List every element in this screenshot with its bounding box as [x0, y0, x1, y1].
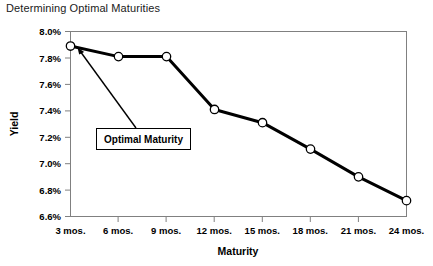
data-point-marker: [258, 118, 266, 126]
y-tick-label-6: 6.8%: [39, 185, 61, 196]
x-tick-label-2: 9 mos.: [151, 225, 181, 236]
y-tick-label-7: 6.6%: [39, 211, 61, 222]
data-point-marker: [162, 52, 170, 60]
chart-screenshot: Determining Optimal Maturities 8.0% 7.8%…: [0, 0, 433, 266]
x-axis-title: Maturity: [218, 245, 259, 257]
x-tick-label-5: 18 mos.: [293, 225, 328, 236]
y-axis-ticks: [65, 32, 71, 217]
x-tick-label-6: 21 mos.: [341, 225, 376, 236]
y-tick-label-3: 7.4%: [39, 105, 61, 116]
y-axis-title: Yield: [8, 112, 20, 137]
data-point-marker: [210, 105, 218, 113]
x-tick-label-4: 15 mos.: [245, 225, 280, 236]
x-axis-ticks: [118, 217, 358, 223]
y-tick-label-5: 7.0%: [39, 158, 61, 169]
x-tick-label-3: 12 mos.: [197, 225, 232, 236]
x-tick-label-1: 6 mos.: [103, 225, 133, 236]
data-point-marker: [114, 52, 122, 60]
chart-canvas: 8.0% 7.8% 7.6% 7.4% 7.2% 7.0% 6.8% 6.6% …: [0, 0, 433, 266]
y-tick-label-4: 7.2%: [39, 132, 61, 143]
data-point-marker: [354, 173, 362, 181]
data-point-marker: [306, 145, 314, 153]
x-tick-label-7: 24 mos.: [389, 225, 424, 236]
x-tick-label-0: 3 mos.: [55, 225, 85, 236]
data-point-marker: [402, 196, 410, 204]
y-tick-label-2: 7.6%: [39, 79, 61, 90]
y-tick-label-0: 8.0%: [39, 26, 61, 37]
y-tick-label-1: 7.8%: [39, 53, 61, 64]
annotation-callout-label: Optimal Maturity: [104, 134, 183, 145]
data-point-marker: [66, 42, 74, 50]
